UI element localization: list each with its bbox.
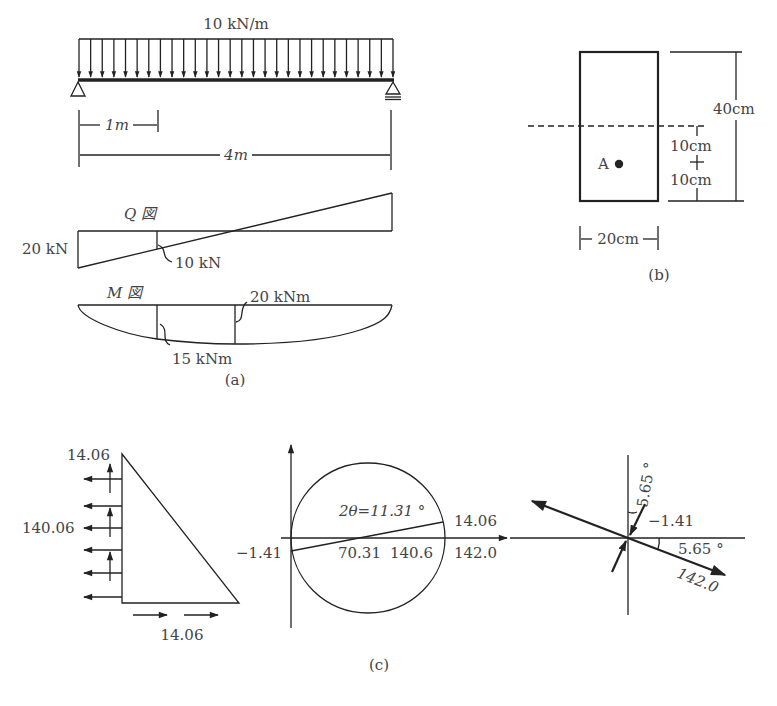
figure-b: 40cm 10cm 10cm A 20cm (b) — [528, 52, 755, 284]
point-a-label: A — [597, 155, 609, 173]
principal-directions: 5.65 ° −1.41 5.65 ° 142.0 — [510, 455, 745, 615]
pin-support-icon — [71, 82, 85, 96]
roller-support-icon — [385, 82, 401, 100]
sigma-value: 140.6 — [390, 544, 433, 562]
q-left-value: 20 kN — [22, 240, 68, 258]
center-value: 70.31 — [338, 544, 381, 562]
angle-arc-vertical — [628, 512, 637, 513]
figure-canvas: 10 kN/m 1m 4m Q — [0, 0, 777, 706]
stress-top-value: 14.06 — [67, 446, 110, 464]
height-label: 40cm — [713, 100, 755, 118]
point-a-dot — [615, 160, 623, 168]
angle-label: 2θ=11.31 ° — [338, 502, 425, 520]
q-title: Q 図 — [124, 205, 158, 223]
distributed-load: 10 kN/m — [79, 15, 393, 77]
angle-arc-horizontal — [658, 538, 659, 549]
m-mid-value: 20 kNm — [250, 288, 310, 306]
m-leader-quarter — [160, 324, 170, 345]
figure-c: 14.06 140.06 14.06 2θ=11.31 ° 14.06 −1.4… — [22, 445, 745, 674]
compression-arrow-bottom — [612, 541, 626, 572]
min-principal-value: −1.41 — [648, 512, 694, 530]
width-label: 20cm — [597, 230, 639, 248]
caption-c: (c) — [369, 656, 389, 674]
moment-diagram: M 図 20 kNm 15 kNm — [78, 284, 392, 368]
upper-offset-label: 10cm — [670, 137, 712, 155]
m-title: M 図 — [106, 284, 144, 302]
m-marker-value: 15 kNm — [172, 350, 232, 368]
caption-b: (b) — [648, 266, 669, 284]
caption-a: (a) — [225, 371, 246, 389]
shear-value: 14.06 — [454, 512, 497, 530]
stress-side-value: 140.06 — [22, 519, 75, 537]
stress-bottom-value: 14.06 — [161, 626, 204, 644]
max-principal-value: 142.0 — [675, 564, 722, 597]
load-arrows — [79, 39, 393, 77]
dim-1m-label: 1m — [105, 116, 129, 134]
left-value: −1.41 — [236, 544, 282, 562]
q-marker-value: 10 kN — [175, 254, 221, 272]
stress-block: 14.06 140.06 14.06 — [22, 446, 239, 644]
load-label: 10 kN/m — [203, 15, 268, 33]
compression-arrow-top — [630, 504, 645, 535]
figure-a: 10 kN/m 1m 4m Q — [22, 15, 401, 389]
lower-offset-label: 10cm — [670, 171, 712, 189]
dim-4m-label: 4m — [223, 146, 248, 164]
mohr-circle: 2θ=11.31 ° 14.06 −1.41 70.31 140.6 142.0 — [236, 445, 507, 628]
vertical-angle-label: 5.65 ° — [633, 461, 659, 509]
principal-arrow-left — [532, 501, 628, 538]
dimension-1m: 1m — [79, 110, 158, 135]
horizontal-angle-label: 5.65 ° — [678, 540, 724, 558]
shear-diagram: Q 図 20 kN 10 kN — [22, 193, 392, 272]
stress-left-arrows — [84, 479, 122, 597]
max-value: 142.0 — [454, 544, 497, 562]
